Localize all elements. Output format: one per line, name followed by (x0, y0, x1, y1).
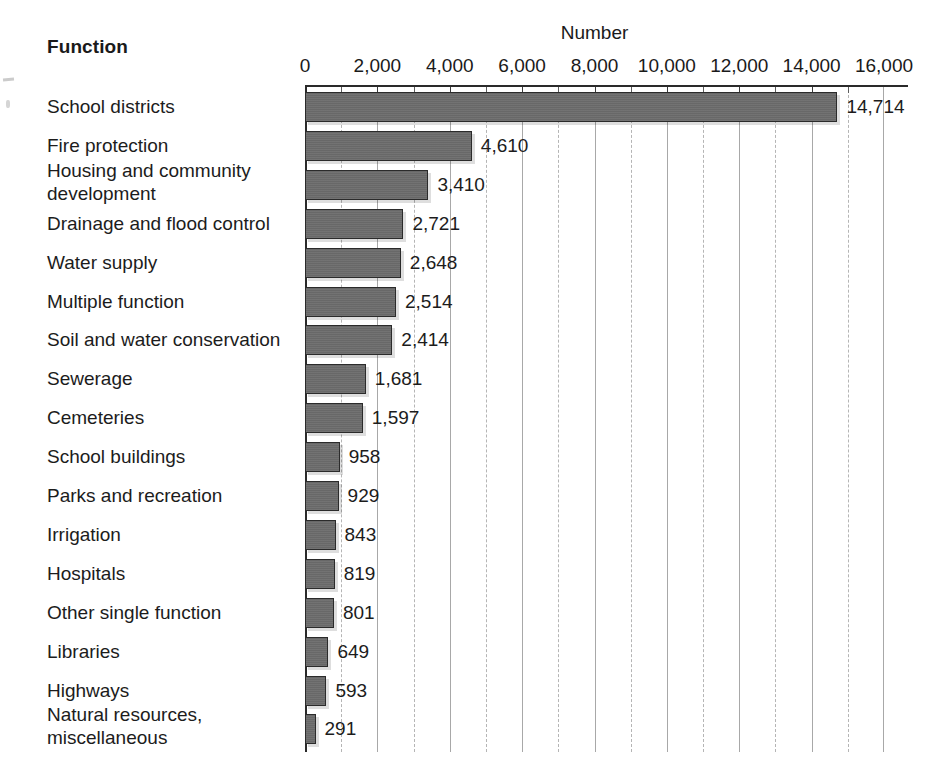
bar (305, 637, 328, 667)
category-label: Sewerage (47, 367, 133, 390)
bar (305, 248, 401, 278)
bar-value-label: 2,721 (412, 213, 460, 235)
bar (305, 209, 403, 239)
category-label: Water supply (47, 251, 157, 274)
bar (305, 131, 472, 161)
category-label: Multiple function (47, 290, 184, 313)
category-label: Fire protection (47, 134, 168, 157)
bar-value-label: 2,414 (401, 329, 449, 351)
bar-value-label: 291 (325, 718, 357, 740)
category-label: Parks and recreation (47, 484, 222, 507)
bar (305, 676, 326, 706)
bar-value-label: 1,597 (372, 407, 420, 429)
x-tick-label: 0 (300, 55, 311, 77)
bar (305, 92, 837, 122)
chart-axis-title: Number (305, 22, 884, 44)
gridline-minor (631, 85, 632, 752)
bar-value-label: 929 (348, 485, 380, 507)
bar (305, 325, 392, 355)
x-tick-label: 12,000 (710, 55, 768, 77)
gridline-major (667, 85, 668, 752)
bar-value-label: 649 (337, 641, 369, 663)
x-tick-label: 14,000 (783, 55, 841, 77)
x-axis-tick-labels: 02,0004,0006,0008,00010,00012,00014,0001… (0, 55, 946, 79)
x-tick-label: 10,000 (638, 55, 696, 77)
x-tick-label: 6,000 (498, 55, 546, 77)
category-label: Highways (47, 679, 129, 702)
bar-value-label: 819 (344, 563, 376, 585)
category-label: School buildings (47, 445, 185, 468)
chart-page: Function Number 02,0004,0006,0008,00010,… (0, 0, 946, 780)
x-tick-label: 16,000 (855, 55, 913, 77)
bar-value-label: 3,410 (437, 174, 485, 196)
category-label: Soil and water conservation (47, 328, 280, 351)
bar-value-label: 958 (349, 446, 381, 468)
category-label: Other single function (47, 601, 221, 624)
bar (305, 520, 336, 550)
x-axis-line (305, 85, 908, 87)
bar-value-label: 1,681 (375, 368, 423, 390)
bar (305, 403, 363, 433)
bar-value-label: 4,610 (481, 135, 529, 157)
bar-value-label: 801 (343, 602, 375, 624)
gridline-major (739, 85, 740, 752)
gridline-minor (775, 85, 776, 752)
category-label: Drainage and flood control (47, 212, 270, 235)
gridline-major (812, 85, 813, 752)
x-tick-label: 8,000 (571, 55, 619, 77)
bar (305, 287, 396, 317)
gridline-minor (703, 85, 704, 752)
category-label: Housing and community development (47, 159, 251, 205)
category-label: School districts (47, 95, 175, 118)
gridline-minor (486, 85, 487, 752)
x-tick-label: 4,000 (426, 55, 474, 77)
bar-value-label: 593 (335, 680, 367, 702)
bar (305, 170, 428, 200)
bar (305, 481, 339, 511)
x-tick-label: 2,000 (354, 55, 402, 77)
gridline-minor (558, 85, 559, 752)
gridline-major (883, 85, 884, 752)
gridline-minor (848, 85, 849, 752)
category-label: Cemeteries (47, 406, 144, 429)
bar (305, 442, 340, 472)
bar (305, 598, 334, 628)
category-label: Hospitals (47, 562, 125, 585)
bar (305, 559, 335, 589)
scan-artifact (6, 100, 10, 108)
bar-value-label: 2,514 (405, 291, 453, 313)
bar-value-label: 2,648 (410, 252, 458, 274)
bar (305, 364, 366, 394)
gridline-major (595, 85, 596, 752)
bar-value-label: 843 (345, 524, 377, 546)
category-label: Libraries (47, 640, 120, 663)
category-label: Irrigation (47, 523, 121, 546)
category-label: Natural resources, miscellaneous (47, 703, 202, 749)
bar-value-label: 14,714 (846, 96, 904, 118)
gridline-major (522, 85, 523, 752)
bar (305, 714, 316, 744)
